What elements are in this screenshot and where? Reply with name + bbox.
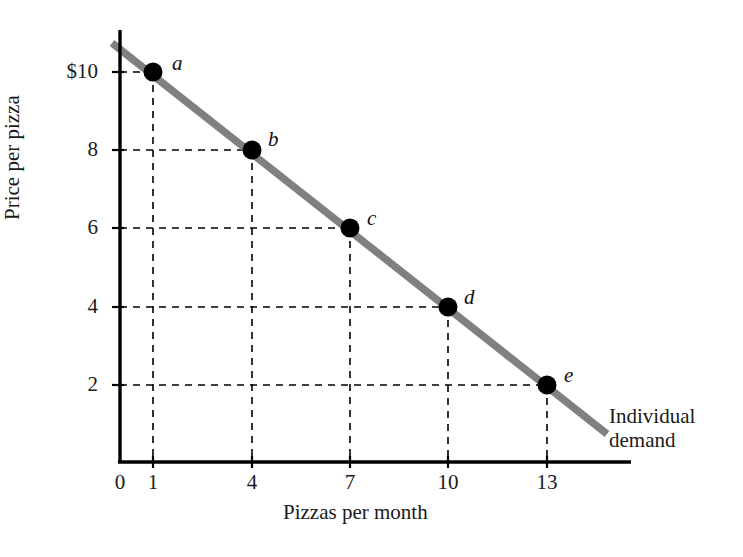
demand-curve-label-line1: Individual <box>609 405 695 429</box>
y-tick-label-4: 4 <box>38 296 98 317</box>
x-tick-label-4: 4 <box>232 472 272 493</box>
y-axis-ticks <box>112 72 124 385</box>
y-tick-label-6: 6 <box>38 217 98 238</box>
data-point-c <box>341 219 360 238</box>
point-label-e: e <box>564 365 573 386</box>
y-tick-label-8: 8 <box>38 139 98 160</box>
point-label-d: d <box>464 287 475 308</box>
demand-curve-line <box>112 43 607 434</box>
x-axis-title: Pizzas per month <box>283 500 428 525</box>
y-axis-title: Price per pizza <box>0 95 25 220</box>
data-point-d <box>439 298 458 317</box>
y-tick-label-2: 2 <box>38 374 98 395</box>
x-tick-label-7: 7 <box>330 472 370 493</box>
point-label-a: a <box>172 53 183 74</box>
data-point-b <box>243 141 262 160</box>
data-point-a <box>144 63 163 82</box>
demand-curve-label: Individual demand <box>609 405 695 452</box>
x-tick-label-1: 1 <box>133 472 173 493</box>
x-tick-label-10: 10 <box>428 472 468 493</box>
y-tick-label-10: $10 <box>38 61 98 82</box>
demand-curve-figure: $10 8 6 4 2 0 1 4 7 10 13 a b c d e Pizz… <box>0 0 743 557</box>
point-label-c: c <box>367 208 376 229</box>
point-label-b: b <box>268 129 279 150</box>
data-point-e <box>538 376 557 395</box>
guide-lines-vertical <box>153 72 547 462</box>
x-tick-label-13: 13 <box>527 472 567 493</box>
demand-curve-label-line2: demand <box>609 429 695 453</box>
